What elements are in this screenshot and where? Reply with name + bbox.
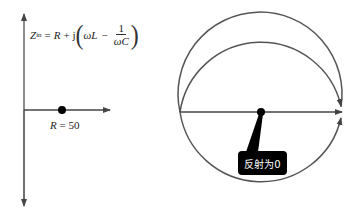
formula-equals: =: [45, 29, 51, 41]
r50-label-value: = 50: [57, 119, 80, 131]
reflection-zero-callout: 反射为0: [238, 151, 287, 175]
formula-z-sub: in: [36, 31, 41, 39]
formula-plus-j: + j: [64, 29, 76, 41]
r50-label: R = 50: [50, 119, 79, 131]
callout-pointer: [246, 114, 263, 152]
left-paren: (: [76, 21, 84, 49]
circle-upper-arc: [178, 12, 342, 112]
formula-fraction: 1 ωC: [114, 22, 129, 47]
fraction-numerator: 1: [116, 22, 126, 35]
fraction-denominator: ωC: [114, 35, 129, 47]
r50-point: [58, 106, 66, 114]
impedance-formula: Zin = R + j ( ωL − 1 ωC ): [30, 22, 139, 47]
r50-label-var: R: [50, 119, 57, 131]
formula-omega-l: ωL: [84, 29, 98, 41]
circle-upper-arc-arrow: [180, 42, 341, 112]
formula-minus: −: [101, 29, 107, 41]
formula-r: R: [54, 29, 61, 41]
right-paren: ): [131, 21, 139, 49]
